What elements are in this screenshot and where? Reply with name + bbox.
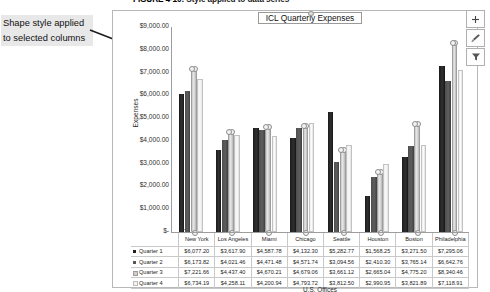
bar-3[interactable]	[265, 126, 271, 232]
table-column-header: Boston	[396, 233, 432, 247]
bar-1[interactable]	[439, 66, 445, 232]
table-cell: $6,642.76	[432, 257, 468, 267]
bar-4[interactable]	[421, 145, 427, 232]
table-column-header: Los Angeles	[215, 233, 251, 247]
bar-3[interactable]	[377, 171, 383, 232]
legend-entry[interactable]: Quarter 3	[131, 267, 179, 277]
y-axis-tick-label: $3,000.00	[123, 159, 169, 166]
table-cell: $1,568.25	[360, 247, 396, 257]
callout-box: Shape style applied to selected columns	[1, 15, 93, 46]
table-column-header: Seattle	[324, 233, 360, 247]
bar-2[interactable]	[185, 91, 191, 232]
bar-4[interactable]	[272, 136, 278, 232]
figure-root: FIGURE 4-10: Style applied to data serie…	[0, 0, 490, 292]
bar-2[interactable]	[371, 177, 377, 232]
plot-area[interactable]	[171, 27, 469, 232]
chart-filters-button[interactable]	[466, 48, 485, 66]
table-header-row: New YorkLos AngelesMiamiChicagoSeattleHo…	[131, 233, 469, 247]
bar-3[interactable]	[191, 68, 197, 232]
table-column-header: Houston	[360, 233, 396, 247]
bar-group	[433, 27, 470, 232]
chart-styles-button[interactable]	[466, 29, 485, 47]
bar-2[interactable]	[222, 140, 228, 232]
bar-2[interactable]	[445, 81, 451, 232]
table-corner-label: $-	[131, 225, 185, 232]
table-cell: $4,571.74	[287, 257, 323, 267]
table-column-header: New York	[179, 233, 215, 247]
bar-1[interactable]	[290, 138, 296, 232]
bar-1[interactable]	[216, 150, 222, 232]
bar-3[interactable]	[303, 125, 309, 232]
bar-3[interactable]	[452, 42, 458, 232]
bar-1[interactable]	[253, 128, 259, 232]
table-cell: $4,775.20	[396, 267, 432, 277]
table-cell: $8,340.46	[432, 267, 468, 277]
table-cell: $7,221.66	[179, 267, 215, 277]
bar-4[interactable]	[234, 135, 240, 232]
bar-1[interactable]	[402, 157, 408, 232]
y-axis-tick-label: $9,000.00	[123, 22, 169, 29]
legend-entry[interactable]: Quarter 2	[131, 257, 179, 267]
bar-2[interactable]	[408, 146, 414, 232]
table-cell: $3,617.90	[215, 247, 251, 257]
bar-4[interactable]	[309, 123, 315, 232]
y-axis-tick-label: $7,000.00	[123, 68, 169, 75]
bar-4[interactable]	[458, 70, 464, 232]
series-selection-handle[interactable]	[338, 147, 344, 153]
figure-caption-number: FIGURE 4-10:	[133, 0, 184, 4]
table-cell: $6,173.82	[179, 257, 215, 267]
series-selection-handle[interactable]	[189, 66, 195, 72]
bar-1[interactable]	[365, 196, 371, 232]
bar-1[interactable]	[328, 112, 334, 232]
table-row: Quarter 1$6,077.20$3,617.90$4,587.78$4,1…	[131, 247, 469, 257]
bar-group	[247, 27, 284, 232]
table-cell: $4,679.06	[287, 267, 323, 277]
table-cell: $4,132.30	[287, 247, 323, 257]
legend-key-icon	[133, 271, 138, 276]
plus-icon	[471, 15, 480, 24]
figure-caption: FIGURE 4-10: Style applied to data serie…	[133, 0, 373, 6]
table-column-header: Chicago	[287, 233, 323, 247]
chart-title-handle[interactable]	[308, 11, 314, 16]
y-axis-tick-label: $5,000.00	[123, 113, 169, 120]
bar-4[interactable]	[197, 79, 203, 232]
y-axis-tick-label: $6,000.00	[123, 90, 169, 97]
y-axis-tick-label: $8,000.00	[123, 45, 169, 52]
table-cell: $4,437.40	[215, 267, 251, 277]
table-cell: $4,587.78	[251, 247, 287, 257]
chart-title[interactable]: ICL Quarterly Expenses	[258, 12, 362, 24]
bar-3[interactable]	[228, 131, 234, 232]
legend-entry[interactable]: Quarter 1	[131, 247, 179, 257]
bar-group	[396, 27, 433, 232]
bar-2[interactable]	[334, 162, 340, 232]
bar-4[interactable]	[346, 145, 352, 232]
bar-3[interactable]	[340, 149, 346, 232]
series-selection-handle[interactable]	[450, 40, 456, 46]
y-axis-tick-label: $4,000.00	[123, 136, 169, 143]
bar-2[interactable]	[296, 128, 302, 232]
data-table-grid: New YorkLos AngelesMiamiChicagoSeattleHo…	[131, 233, 469, 289]
legend-label: Quarter 4	[139, 280, 163, 286]
callout-line-2: to selected columns	[3, 31, 91, 46]
bar-4[interactable]	[383, 164, 389, 232]
table-cell: $3,661.12	[324, 267, 360, 277]
table-cell: $3,094.56	[324, 257, 360, 267]
legend-label: Quarter 2	[139, 259, 163, 265]
table-cell: $4,021.46	[215, 257, 251, 267]
chart-elements-button[interactable]	[466, 10, 485, 28]
funnel-icon	[471, 52, 481, 62]
legend-key-icon	[133, 281, 138, 286]
bar-3[interactable]	[414, 123, 420, 232]
chart-data-table: New YorkLos AngelesMiamiChicagoSeattleHo…	[131, 233, 469, 285]
legend-label: Quarter 3	[139, 269, 163, 275]
legend-label: Quarter 1	[139, 248, 163, 254]
bar-group	[172, 27, 209, 232]
bar-2[interactable]	[259, 130, 265, 232]
y-axis-tick-label: $2,000.00	[123, 181, 169, 188]
table-cell: $3,765.14	[396, 257, 432, 267]
legend-key-icon	[133, 261, 136, 264]
excel-chart-object[interactable]: ICL Quarterly Expenses Expenses $9,000.0…	[112, 10, 478, 288]
table-cell: $7,295.06	[432, 247, 468, 257]
bar-1[interactable]	[179, 94, 185, 232]
figure-caption-text: Style applied to data series	[186, 0, 289, 4]
